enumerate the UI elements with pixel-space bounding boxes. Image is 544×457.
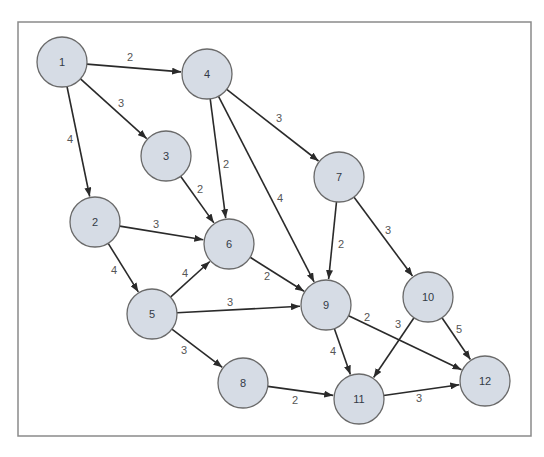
edge-weight-9-12: 2 bbox=[364, 311, 370, 323]
node-11: 11 bbox=[334, 374, 384, 424]
edge-weight-4-9: 4 bbox=[277, 192, 283, 204]
node-label: 1 bbox=[59, 56, 65, 68]
node-12: 12 bbox=[460, 356, 510, 406]
edge-weight-5-9: 3 bbox=[227, 296, 233, 308]
node-label: 9 bbox=[323, 299, 329, 311]
edge-weight-6-9: 2 bbox=[264, 270, 270, 282]
network-diagram: 234324234433223423523 123456789101112 bbox=[0, 0, 544, 457]
edge-weight-10-11: 3 bbox=[395, 318, 401, 330]
node-10: 10 bbox=[403, 272, 453, 322]
node-1: 1 bbox=[37, 37, 87, 87]
edge-weight-7-9: 2 bbox=[338, 238, 344, 250]
node-label: 8 bbox=[240, 377, 246, 389]
edge-weight-2-5: 4 bbox=[111, 264, 117, 276]
node-4: 4 bbox=[182, 49, 232, 99]
edge-weight-8-11: 2 bbox=[292, 394, 298, 406]
node-6: 6 bbox=[204, 219, 254, 269]
node-label: 6 bbox=[226, 238, 232, 250]
node-3: 3 bbox=[141, 131, 191, 181]
node-label: 4 bbox=[204, 68, 210, 80]
node-2: 2 bbox=[70, 197, 120, 247]
edge-weight-7-10: 3 bbox=[385, 224, 391, 236]
node-9: 9 bbox=[301, 280, 351, 330]
edge-weight-10-12: 5 bbox=[456, 323, 462, 335]
node-7: 7 bbox=[314, 152, 364, 202]
node-label: 3 bbox=[163, 150, 169, 162]
node-label: 5 bbox=[149, 308, 155, 320]
edge-weight-2-6: 3 bbox=[153, 218, 159, 230]
edge-weight-9-11: 4 bbox=[330, 345, 336, 357]
edge-weight-4-6: 2 bbox=[223, 158, 229, 170]
edge-weight-4-7: 3 bbox=[276, 112, 282, 124]
edge-weight-5-8: 3 bbox=[181, 344, 187, 356]
node-5: 5 bbox=[127, 289, 177, 339]
edge-weight-3-6: 2 bbox=[197, 183, 203, 195]
node-label: 7 bbox=[336, 171, 342, 183]
edge-weight-1-4: 2 bbox=[127, 51, 133, 63]
node-label: 11 bbox=[353, 393, 364, 405]
node-label: 10 bbox=[422, 291, 434, 303]
node-label: 2 bbox=[92, 216, 98, 228]
node-label: 12 bbox=[479, 375, 491, 387]
edge-weight-5-6: 4 bbox=[182, 267, 188, 279]
edge-weight-11-12: 3 bbox=[416, 392, 422, 404]
edge-weight-1-3: 3 bbox=[118, 97, 124, 109]
node-8: 8 bbox=[218, 358, 268, 408]
edge-weight-1-2: 4 bbox=[67, 133, 73, 145]
